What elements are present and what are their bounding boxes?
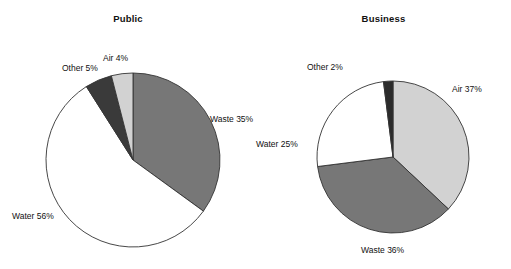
slice-label-public-air: Air 4%	[103, 54, 128, 63]
slice-label-business-water: Water 25%	[256, 140, 298, 149]
slice-label-business-air: Air 37%	[452, 85, 482, 94]
pie-slice-water[interactable]	[317, 82, 393, 167]
pie-business	[256, 0, 511, 269]
chart-panel-public: Public Other 5% Air 4% Waste 35% Water 5…	[0, 0, 256, 269]
slice-label-business-other: Other 2%	[307, 63, 343, 72]
chart-panel-business: Business Other 2% Air 37% Water 25% Wast…	[256, 0, 511, 269]
slice-label-public-waste: Waste 35%	[210, 115, 253, 124]
slice-label-business-waste: Waste 36%	[361, 246, 404, 255]
slice-label-public-water: Water 56%	[12, 212, 54, 221]
slice-label-public-other: Other 5%	[62, 64, 98, 73]
pie-public	[0, 0, 256, 269]
pie-chart-figure: Public Other 5% Air 4% Waste 35% Water 5…	[0, 0, 511, 269]
